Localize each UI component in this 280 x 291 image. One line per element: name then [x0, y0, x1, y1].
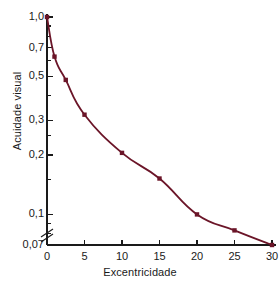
data-point-marker	[64, 78, 68, 82]
plot-area	[0, 0, 280, 291]
data-point-marker	[120, 151, 124, 155]
data-point-marker	[82, 112, 86, 116]
y-axis-ticks	[47, 17, 53, 245]
x-axis-ticks	[47, 240, 272, 245]
data-point-marker	[45, 15, 49, 19]
data-point-marker	[232, 228, 236, 232]
data-point-marker	[195, 212, 199, 216]
data-series-line	[47, 17, 272, 245]
data-point-markers	[45, 15, 274, 247]
chart-container: Acuidade visual 1,0 0,7 0,5 0,3 0,2 0,1 …	[0, 0, 280, 291]
data-point-marker	[52, 54, 56, 58]
data-point-marker	[157, 176, 161, 180]
x-axis-title: Excentricidade	[0, 266, 280, 278]
data-point-marker	[270, 243, 274, 247]
axis-lines	[47, 14, 276, 245]
